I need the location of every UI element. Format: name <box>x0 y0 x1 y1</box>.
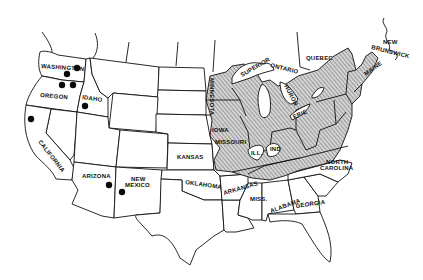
label-arizona: ARIZONA <box>82 173 111 179</box>
label-minnesota: MINNESOTA <box>209 78 215 116</box>
dot-washington-2 <box>64 71 70 77</box>
state-wyoming <box>109 93 158 132</box>
label-kansas: KANSAS <box>177 154 204 160</box>
label-illinois: ILL. <box>251 150 263 156</box>
label-north-carolina-2: CAROLINA <box>320 165 354 171</box>
state-north-dakota <box>158 67 206 91</box>
dot-oregon-1 <box>59 82 65 88</box>
label-mississippi: MISS. <box>250 196 267 202</box>
dot-idaho <box>82 103 88 109</box>
dot-arizona <box>106 182 112 188</box>
dot-california <box>28 116 34 122</box>
label-ontario: ONTARIO <box>270 62 299 75</box>
state-montana <box>90 58 159 98</box>
state-florida <box>268 212 331 262</box>
dot-new-mexico <box>119 189 125 195</box>
us-range-map: WASHINGTON OREGON IDAHO CALIFORNIA ARIZO… <box>0 0 423 280</box>
label-quebec: QUEBEC <box>306 55 333 61</box>
label-iowa: IOWA <box>212 127 229 133</box>
state-south-dakota <box>156 90 206 115</box>
label-missouri: MISSOURI <box>215 139 246 145</box>
label-new-brunswick-1: NEW <box>383 39 398 45</box>
label-new-mexico-2: MEXICO <box>125 182 150 188</box>
state-arizona <box>72 162 116 218</box>
dot-oregon-2 <box>70 82 76 88</box>
label-indiana: IND <box>270 146 281 152</box>
state-colorado <box>116 130 168 168</box>
